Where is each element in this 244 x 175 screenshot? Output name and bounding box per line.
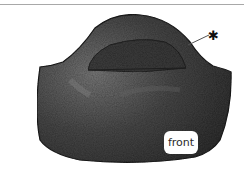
pocket-body <box>37 15 231 163</box>
pocket-drawing: ✱ <box>0 0 244 175</box>
front-label: front <box>164 131 198 154</box>
asterisk-marker: ✱ <box>208 28 219 43</box>
marker-leader-line <box>188 35 209 45</box>
